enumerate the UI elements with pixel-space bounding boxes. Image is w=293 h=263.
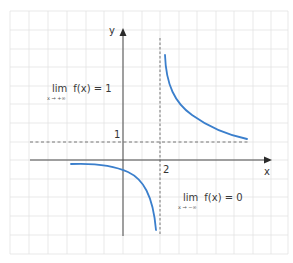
curve-right-branch [165,55,247,139]
x-axis-label: x [264,167,270,177]
lim-expression: f(x) = 1 [73,83,111,94]
limit-annotation-plus-infinity: limf(x) = 1 x → +∞ [52,84,112,101]
x-tick-label: 2 [163,165,169,175]
lim-subscript: x → −∞ [178,205,243,210]
y-tick-label: 1 [114,130,120,140]
function-graph [0,0,293,263]
grid [10,11,288,254]
lim-expression: f(x) = 0 [204,192,242,203]
y-axis-arrow-icon [120,28,127,36]
y-axis-label: y [109,26,115,36]
lim-word: lim [183,192,198,203]
lim-word: lim [52,83,67,94]
limit-annotation-minus-infinity: limf(x) = 0 x → −∞ [183,193,243,210]
lim-subscript: x → +∞ [47,96,112,101]
